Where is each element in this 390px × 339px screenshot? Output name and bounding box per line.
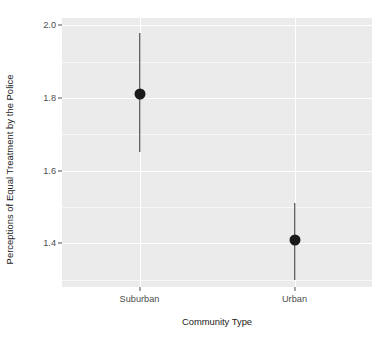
x-tick-label: Suburban	[120, 294, 160, 304]
x-axis-title: Community Type	[62, 316, 372, 327]
x-tick-mark	[294, 287, 295, 291]
y-tick-label: 1.8	[43, 93, 56, 103]
data-point	[289, 234, 300, 245]
gridline-major-horizontal	[62, 171, 372, 172]
x-tick-label: Urban	[282, 294, 307, 304]
gridline-minor-horizontal	[62, 280, 372, 281]
x-tick-mark	[139, 287, 140, 291]
gridline-minor-horizontal	[62, 62, 372, 63]
gridline-minor-horizontal	[62, 134, 372, 135]
gridline-major-horizontal	[62, 25, 372, 26]
chart-plot-root: Perceptions of Equal Treatment by the Po…	[0, 0, 390, 339]
gridline-major-horizontal	[62, 98, 372, 99]
y-tick-label: 1.6	[43, 166, 56, 176]
y-axis-title: Perceptions of Equal Treatment by the Po…	[0, 0, 18, 339]
y-tick-label: 1.4	[43, 238, 56, 248]
data-point	[134, 89, 145, 100]
gridline-minor-horizontal	[62, 207, 372, 208]
plot-panel	[62, 18, 372, 287]
gridline-major-horizontal	[62, 243, 372, 244]
y-axis: 2.01.81.61.4	[22, 0, 62, 339]
y-tick-label: 2.0	[43, 20, 56, 30]
